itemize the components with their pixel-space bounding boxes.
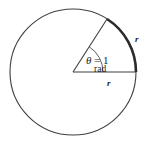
highlighted-arc	[107, 19, 136, 72]
circle-radian-diagram: θ = 1 rad r r	[0, 0, 151, 148]
diagram-canvas	[0, 0, 151, 148]
radius-length-label: r	[107, 79, 111, 88]
angle-unit-label: rad	[94, 65, 106, 75]
arc-length-label: r	[135, 35, 139, 44]
